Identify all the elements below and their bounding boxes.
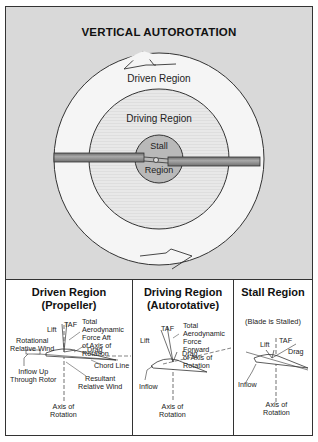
stall-region-label-2: Region xyxy=(129,165,189,175)
panel-driven-region: Driven Region (Propeller) xyxy=(6,280,133,435)
rotational-relative-wind-label: Rotational Relative Wind xyxy=(10,337,54,353)
taf-description: Total Aerodynamic Force Forward of Axis … xyxy=(183,322,225,370)
axis-of-rotation-label: Axis of Rotation xyxy=(263,401,290,417)
drag-label: Drag xyxy=(87,346,103,354)
taf-label: TAF xyxy=(161,325,174,333)
rotor-diagram-panel: VERTICAL AUTOROTATION xyxy=(6,7,312,280)
drag-label: Drag xyxy=(288,348,304,356)
lift-label: Lift xyxy=(47,326,57,334)
resultant-relative-wind-label: Resultant Relative Wind xyxy=(78,375,122,391)
blade-section-panels: Driven Region (Propeller) xyxy=(6,280,312,435)
driving-region-label: Driving Region xyxy=(109,113,209,124)
inflow-label: Inflow xyxy=(238,381,257,389)
axis-of-rotation-label: Axis of Rotation xyxy=(159,403,186,419)
taf-label: TAF xyxy=(279,337,292,345)
chord-line-label: Chord Line xyxy=(94,362,129,370)
rotor-blade-left xyxy=(54,153,144,162)
inflow-label: Inflow Up Through Rotor xyxy=(10,368,56,384)
driven-region-label: Driven Region xyxy=(109,73,209,84)
axis-of-rotation-label: Axis of Rotation xyxy=(50,403,77,419)
panel-driving-region: Driving Region (Autorotative) Total Aero… xyxy=(133,280,234,435)
panel-stall-region: Stall Region (Blade is Stalled) Lift TAF… xyxy=(234,280,312,435)
lift-label: Lift xyxy=(260,341,270,349)
drag-label: Drag xyxy=(182,350,198,358)
taf-label: TAF xyxy=(64,321,77,329)
lift-label: Lift xyxy=(140,337,150,345)
stall-region-label-1: Stall xyxy=(129,141,189,151)
inflow-label: Inflow xyxy=(139,383,158,391)
figure-frame: VERTICAL AUTOROTATION xyxy=(5,6,313,436)
rotor-hub xyxy=(154,158,159,163)
